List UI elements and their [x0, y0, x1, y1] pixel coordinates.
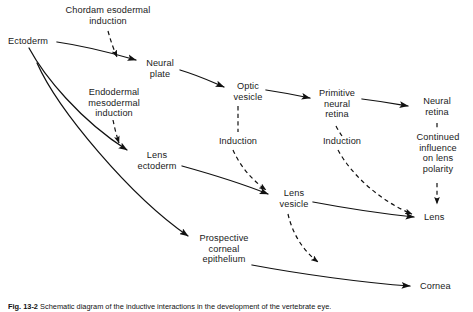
edge-lens-vesicle-to-lens: [313, 202, 414, 217]
node-primitive-neural-retina: Primitive neural retina: [312, 88, 362, 120]
edge-primitive-neural-retina-to-induction-2: [336, 126, 342, 136]
node-ectoderm: Ectoderm: [8, 36, 48, 47]
figure-caption: Fig. 13-2 Schematic diagram of the induc…: [8, 302, 331, 311]
node-induction-2: Induction: [316, 136, 368, 147]
edge-optic-vesicle-to-primitive-neural-retina: [266, 90, 310, 98]
node-neural-retina: Neural retina: [412, 96, 462, 117]
node-lens-ectoderm: Lens ectoderm: [132, 150, 182, 171]
edge-induction-2-to-lens: [338, 150, 412, 214]
edge-induction-1-to-lens-vesicle: [233, 150, 266, 190]
node-induction-1: Induction: [212, 136, 264, 147]
edge-primitive-neural-retina-to-neural-retina: [362, 99, 408, 106]
figure-caption-text: Schematic diagram of the inductive inter…: [38, 302, 331, 311]
edge-lens-ectoderm-to-lens-vesicle: [182, 166, 268, 194]
node-chordamesodermal-induction: Chordam esodermal induction: [59, 5, 157, 26]
edge-prospective-corneal-epithelium-to-cornea: [252, 265, 410, 286]
figure-container: Ectoderm Chordam esodermal induction Neu…: [0, 0, 473, 312]
node-endodermal-mesodermal-induction: Endodermal mesodermal induction: [78, 87, 150, 119]
edge-lens-vesicle-to-cornea-induction: [288, 214, 318, 262]
edge-neural-plate-to-optic-vesicle: [180, 70, 224, 87]
figure-caption-number: Fig. 13-2: [8, 302, 38, 311]
node-optic-vesicle: Optic vesicle: [228, 81, 268, 102]
node-prospective-corneal-epithelium: Prospective corneal epithelium: [194, 233, 254, 265]
edge-ectoderm-to-neural-plate: [57, 42, 136, 60]
node-continued-influence: Continued influence on lens polarity: [410, 132, 466, 174]
node-lens-vesicle: Lens vesicle: [272, 188, 316, 209]
node-lens: Lens: [424, 212, 444, 223]
edge-endoderm-mesoderm-to-lens-ectoderm: [113, 120, 119, 143]
node-cornea: Cornea: [420, 281, 451, 292]
diagram-canvas: [0, 0, 473, 312]
node-neural-plate: Neural plate: [140, 58, 180, 79]
